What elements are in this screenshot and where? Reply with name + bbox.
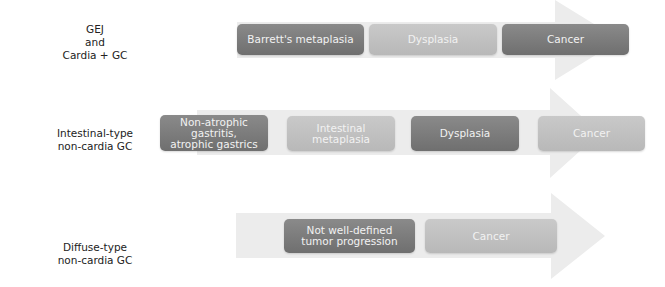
step-not-well-defined: Not well-defined tumor progression: [284, 219, 415, 253]
step-label: Cancer: [473, 231, 510, 242]
step-label: tumor progression: [301, 236, 397, 247]
step-cancer: Cancer: [425, 219, 557, 253]
